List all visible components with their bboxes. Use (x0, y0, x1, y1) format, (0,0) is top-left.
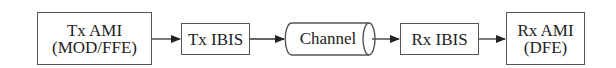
tx-ami-block: Tx AMI (MOD/FFE) (37, 12, 152, 65)
channel-label: Channel (290, 30, 366, 47)
tx-ibis-label: Tx IBIS (188, 31, 243, 48)
rx-ibis-block: Rx IBIS (400, 23, 479, 55)
tx-ami-label: Tx AMI (67, 22, 122, 39)
rx-ami-block: Rx AMI (DFE) (506, 12, 585, 65)
tx-ibis-block: Tx IBIS (181, 23, 250, 55)
rx-ami-label: Rx AMI (517, 22, 573, 39)
rx-ami-sublabel: (DFE) (524, 39, 567, 56)
rx-ibis-label: Rx IBIS (411, 31, 467, 48)
tx-ami-sublabel: (MOD/FFE) (52, 39, 137, 56)
